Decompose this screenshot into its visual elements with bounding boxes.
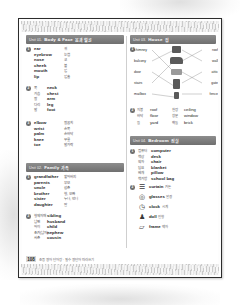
word-kr: 코 — [64, 57, 67, 62]
unit-header-body-and-face: Unit 01. Body & Face 몸과 얼굴 — [26, 35, 124, 44]
word-kr: 눈썹 — [64, 52, 70, 57]
word-en: school bag — [151, 176, 174, 181]
word-kr: 귀 — [64, 46, 67, 51]
word-kr: 형제자매 — [34, 213, 47, 218]
match-left-label[interactable]: mailbox — [134, 92, 146, 96]
unit-header-family: Unit 02. Family 가족 — [26, 163, 124, 172]
word-kr: 볼 — [64, 63, 67, 68]
word-kr: 벽돌 — [172, 120, 184, 125]
match-left-label[interactable]: door — [134, 70, 141, 74]
word-kr: 팔꿈치 — [64, 120, 73, 125]
unit-title: House — [148, 37, 162, 42]
word-kr: 남편 — [34, 219, 47, 224]
word-en: foot — [47, 107, 55, 112]
unit-title-kr: 몸과 얼굴 — [75, 37, 92, 43]
word-kr: 바닥 — [137, 113, 150, 118]
group-badge: 2 — [26, 86, 31, 91]
match-left-label[interactable]: stairs — [134, 81, 142, 85]
word-en: brother — [34, 191, 64, 196]
word-kr: 다리 — [34, 102, 47, 107]
icon-word-row: ▱ frame 액자 — [137, 222, 168, 231]
icon-word-row: ☰ curtain 커튼 — [137, 182, 171, 191]
decorative-wave-border-top — [21, 21, 219, 32]
word-en: frame — [149, 224, 161, 229]
word-kr: 액자 — [162, 224, 168, 229]
wordlist-bedroom-group-1: 컴퓨터computer 책상desk 의자chair 담요blanket 베개p… — [138, 148, 174, 182]
word-en: glasses — [149, 194, 165, 199]
unit-number: Unit 04. — [133, 139, 146, 143]
word-kr: 부모 — [64, 180, 70, 185]
word-kr: 팔 — [34, 96, 47, 101]
group-badge: 2 — [26, 214, 31, 219]
word-kr: 담요 — [138, 165, 151, 170]
word-en: neck — [47, 85, 57, 90]
word-en: yard — [150, 120, 172, 125]
unit-header-house: Unit 03. House 집 — [130, 35, 216, 44]
word-kr: 뜰 — [137, 120, 150, 125]
match-left-label[interactable]: chimney — [134, 48, 147, 52]
word-en: nose — [34, 57, 64, 62]
word-en: husband — [47, 219, 65, 224]
word-kr: 형, 오빠 — [64, 191, 75, 196]
word-en: wrist — [34, 126, 64, 131]
group-badge: 2 — [130, 185, 135, 190]
icon-word-row: ◷ clock 시계 — [137, 202, 168, 211]
word-kr: 천장 — [172, 107, 184, 112]
word-kr: 조카(남자) — [34, 230, 47, 235]
match-right-label[interactable]: roof — [212, 48, 218, 52]
word-kr: 컴퓨터 — [138, 148, 151, 153]
match-right-label[interactable]: attic — [212, 70, 218, 74]
word-kr: 커튼 — [165, 184, 171, 189]
match-right-label[interactable]: wall — [212, 59, 218, 63]
word-en: curtain — [149, 184, 163, 189]
unit-title: Bedroom — [148, 138, 169, 143]
word-en: computer — [151, 148, 171, 153]
page-number: 108 — [26, 256, 36, 262]
word-kr: 발 — [34, 107, 47, 112]
match-left-label[interactable]: balcony — [134, 59, 146, 63]
chimney-icon — [172, 46, 181, 53]
word-row: lip입술 — [34, 74, 70, 80]
word-kr: 책가방 — [138, 176, 151, 181]
word-en: brick — [184, 120, 208, 125]
word-en: pillow — [151, 170, 163, 175]
word-en: window — [184, 113, 208, 118]
group-badge: 1 — [26, 175, 31, 180]
word-en: elbow — [34, 120, 64, 125]
mailbox-icon — [174, 92, 179, 99]
word-kr: 입 — [64, 68, 67, 73]
word-en: palm — [34, 131, 64, 136]
word-kr: 아이 — [34, 224, 47, 229]
word-en: chest — [47, 91, 58, 96]
word-kr: 딸 — [64, 202, 67, 207]
word-en: floor — [150, 113, 172, 118]
word-kr: 무릎 — [64, 137, 70, 142]
wordlist-body-group-3: elbow팔꿈치 wrist손목 palm손바닥 knee무릎 toe발가락 — [34, 120, 73, 148]
word-en: roof — [150, 107, 172, 112]
word-en: uncle — [34, 185, 64, 190]
word-en: sibling — [47, 213, 61, 218]
roof-icon — [170, 57, 183, 64]
word-en: parents — [34, 180, 64, 185]
word-kr: 지붕 — [137, 107, 150, 112]
word-kr: 입술 — [64, 74, 70, 79]
clock-icon: ◷ — [137, 203, 146, 211]
word-en: leg — [47, 102, 53, 107]
icon-word-row: ♟ doll 인형 — [137, 212, 164, 221]
word-en: lip — [34, 74, 64, 79]
word-en: doll — [149, 214, 157, 219]
doll-icon: ♟ — [137, 213, 146, 221]
match-right-label[interactable]: gate — [211, 81, 218, 85]
word-en: clock — [149, 204, 160, 209]
word-kr: 안경 — [166, 194, 172, 199]
matching-exercise-house[interactable]: chimney balcony door stairs mailbox roof… — [134, 46, 218, 100]
wordlist-family-group-2: 형제자매sibling 남편husband 아이child 조카(남자)neph… — [34, 213, 65, 241]
word-en: ear — [34, 46, 64, 51]
word-en: cousin — [47, 235, 61, 240]
word-row: toe발가락 — [34, 142, 73, 148]
match-right-label[interactable]: fence — [209, 92, 218, 96]
word-kr: 손바닥 — [64, 131, 73, 136]
word-kr: 발가락 — [64, 142, 73, 147]
word-kr: 할아버지 — [64, 174, 76, 179]
group-badge: 1 — [26, 47, 31, 52]
